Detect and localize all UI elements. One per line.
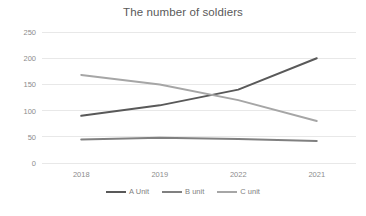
y-tick-label: 100 [10, 106, 36, 115]
legend-swatch-a-unit [106, 191, 126, 193]
legend-swatch-c-unit [217, 191, 237, 193]
chart-container: The number of soldiers 050100150200250 2… [0, 0, 366, 216]
y-tick-label: 150 [10, 80, 36, 89]
y-tick-label: 50 [10, 132, 36, 141]
chart-legend: A UnitB unitC unit [0, 188, 366, 196]
legend-item-a-unit[interactable]: A Unit [106, 188, 149, 196]
plot-area: 050100150200250 2018201920222021 [0, 0, 366, 216]
y-tick-label: 0 [10, 159, 36, 168]
chart-svg [0, 0, 366, 216]
legend-label-c-unit: C unit [240, 188, 260, 196]
legend-item-b-unit[interactable]: B unit [162, 188, 204, 196]
x-tick-label: 2019 [140, 170, 180, 179]
y-tick-label: 250 [10, 28, 36, 37]
y-tick-label: 200 [10, 54, 36, 63]
legend-label-b-unit: B unit [185, 188, 204, 196]
x-tick-label: 2018 [61, 170, 101, 179]
legend-swatch-b-unit [162, 191, 182, 193]
x-tick-label: 2022 [218, 170, 258, 179]
series-line-b-unit [81, 138, 317, 141]
series-line-a-unit [81, 58, 317, 116]
x-tick-label: 2021 [297, 170, 337, 179]
legend-item-c-unit[interactable]: C unit [217, 188, 260, 196]
series-lines [81, 58, 317, 141]
legend-label-a-unit: A Unit [129, 188, 149, 196]
